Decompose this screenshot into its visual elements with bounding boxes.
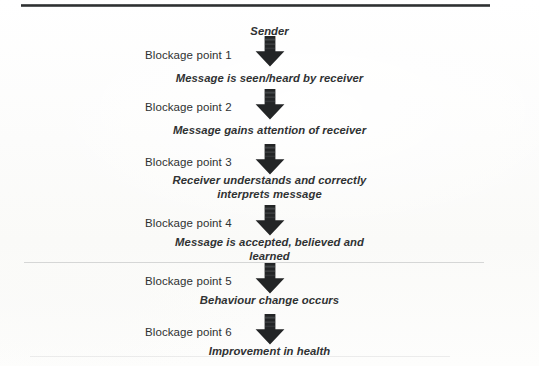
flow-message-line: Receiver understands and correctly [0, 173, 539, 187]
flow-message-line: Message is seen/heard by receiver [0, 71, 539, 85]
top-horizontal-rule [21, 4, 490, 7]
blockage-label-6: Blockage point 6 [145, 326, 232, 338]
flow-message-line: interprets message [0, 187, 539, 201]
flow-message-line: Improvement in health [0, 344, 539, 358]
flow-message-1: Message is seen/heard by receiver [0, 71, 539, 85]
blockage-label-5: Blockage point 5 [145, 275, 232, 287]
flow-message-4: Message is accepted, believed and learne… [0, 235, 539, 263]
flow-message-3: Receiver understands and correctly inter… [0, 173, 539, 201]
flow-message-line: Message is accepted, believed and [0, 235, 539, 249]
down-block-arrow-icon [253, 144, 287, 175]
blockage-label-3: Blockage point 3 [145, 156, 232, 168]
flow-message-line: learned [0, 249, 539, 263]
blockage-label-4: Blockage point 4 [145, 217, 232, 229]
flow-message-5: Behaviour change occurs [0, 293, 539, 307]
down-block-arrow-icon [253, 89, 287, 120]
flow-message-2: Message gains attention of receiver [0, 123, 539, 137]
document-page: Sender Blockage point 1 Blockage point 2… [0, 0, 539, 366]
down-block-arrow-icon [253, 263, 287, 294]
down-block-arrow-icon [253, 314, 287, 345]
flow-message-line: Behaviour change occurs [0, 293, 539, 307]
down-block-arrow-icon [253, 36, 287, 67]
flow-message-line: Message gains attention of receiver [0, 123, 539, 137]
down-block-arrow-icon [253, 205, 287, 236]
flow-message-6: Improvement in health [0, 344, 539, 358]
blockage-label-1: Blockage point 1 [145, 49, 232, 61]
blockage-label-2: Blockage point 2 [145, 101, 232, 113]
